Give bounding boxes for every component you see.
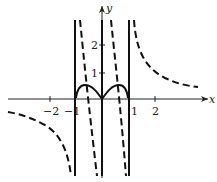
y-axis-label: y: [105, 2, 113, 15]
y-tick-label: 2: [91, 39, 98, 52]
function-graph: −2 −1 1 2 1 2 x y: [0, 0, 217, 182]
graph-canvas: −2 −1 1 2 1 2 x y: [0, 0, 217, 182]
x-tick-label: 2: [152, 105, 159, 118]
dashed-left-branch: [8, 112, 71, 176]
x-axis-label: x: [209, 93, 216, 106]
x-tick-label: −2: [43, 105, 59, 118]
dashed-middle-right: [111, 20, 126, 176]
y-tick-label: 1: [91, 67, 98, 80]
x-tick-label: −1: [64, 105, 80, 118]
dashed-right-branch: [134, 20, 198, 87]
x-tick-label: 1: [131, 105, 138, 118]
